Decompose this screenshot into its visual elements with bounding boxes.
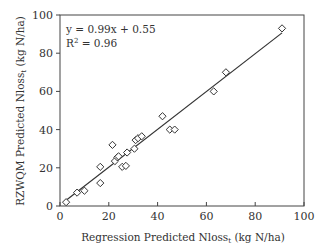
diamond-marker	[97, 163, 104, 170]
x-tick-label: 20	[102, 210, 116, 223]
y-axis-ticks: 020406080100	[32, 9, 60, 213]
y-tick-label: 80	[39, 47, 53, 60]
x-axis-label: Regression Predicted Nlosst (kg N/ha)	[81, 231, 285, 245]
diamond-marker	[159, 113, 166, 120]
diamond-marker	[278, 25, 285, 32]
y-axis-label: RZWQM Predicted Nlosst (kg N/ha)	[14, 16, 28, 206]
data-points	[63, 25, 286, 206]
r-squared: R2 = 0.96	[66, 37, 118, 49]
regression-equation: y = 0.99x + 0.55	[65, 23, 156, 35]
diamond-marker	[97, 179, 104, 186]
x-tick-label: 80	[248, 210, 262, 223]
diamond-marker	[109, 141, 116, 148]
y-tick-label: 40	[39, 124, 53, 137]
scatter-chart: 020406080100 020406080100 y = 0.99x + 0.…	[0, 0, 330, 251]
trendline	[65, 33, 282, 201]
x-tick-label: 60	[199, 210, 213, 223]
diamond-marker	[131, 145, 138, 152]
y-tick-label: 20	[39, 162, 53, 175]
x-tick-label: 100	[294, 210, 315, 223]
y-tick-label: 0	[46, 200, 53, 213]
y-tick-label: 100	[32, 9, 53, 22]
x-axis-ticks: 020406080100	[57, 202, 315, 223]
diamond-marker	[210, 88, 217, 95]
diamond-marker	[171, 126, 178, 133]
x-tick-label: 40	[151, 210, 165, 223]
x-tick-label: 0	[57, 210, 64, 223]
diamond-marker	[63, 199, 70, 206]
y-tick-label: 60	[39, 85, 53, 98]
